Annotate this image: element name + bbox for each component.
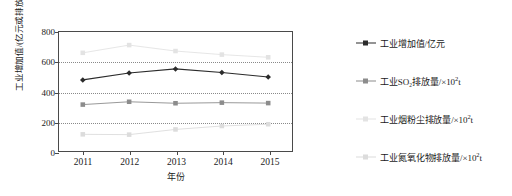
x-tick-label: 2012	[120, 157, 139, 167]
y-tick-label: 800	[42, 27, 56, 37]
data-point-marker	[173, 101, 178, 106]
legend-marker	[363, 117, 368, 122]
series-layer	[59, 32, 292, 151]
legend-item-1[interactable]: 工业增加值/亿元	[356, 24, 512, 62]
series-2	[81, 100, 271, 107]
data-point-marker	[220, 100, 225, 105]
data-point-marker	[81, 132, 86, 137]
x-tick-label: 2011	[74, 157, 93, 167]
x-tick-label: 2013	[167, 157, 186, 167]
x-axis-title: 年份	[167, 170, 185, 183]
legend-label-unit: t	[458, 77, 460, 87]
legend-marker	[363, 79, 368, 84]
legend-label-text: 工业烟粉尘排放量/×10	[380, 115, 467, 125]
legend-item-3[interactable]: 工业烟粉尘排放量/×102t	[356, 100, 512, 138]
legend-label: 工业氮氧化物排放量/×102t	[380, 151, 482, 164]
legend-label-text: 工业氮氧化物排放量/×10	[380, 153, 476, 163]
legend-label-unit: t	[471, 115, 473, 125]
legend-marker	[363, 155, 368, 160]
data-point-marker	[173, 49, 178, 54]
series-4	[81, 122, 271, 137]
legend-label: 工业增加值/亿元	[380, 37, 445, 50]
y-tick-label: 600	[42, 57, 56, 67]
data-point-marker	[265, 74, 271, 80]
x-tick-mark	[130, 151, 131, 155]
series-3	[81, 43, 271, 60]
x-tick-mark	[223, 151, 224, 155]
data-point-marker	[127, 132, 132, 137]
data-point-marker	[220, 124, 225, 129]
chart-legend: 工业增加值/亿元工业SO₂排放量/×102t工业烟粉尘排放量/×102t工业氮氧…	[356, 24, 512, 176]
legend-item-4[interactable]: 工业氮氧化物排放量/×102t	[356, 138, 512, 176]
series-1	[80, 66, 271, 83]
y-tick-mark	[55, 153, 59, 154]
legend-swatch-square-icon	[356, 76, 376, 86]
data-point-marker	[266, 101, 271, 106]
data-point-marker	[219, 70, 225, 76]
data-point-marker	[173, 127, 178, 132]
y-tick-label: 0	[51, 148, 56, 158]
data-point-marker	[127, 43, 132, 48]
legend-label-unit: t	[479, 153, 481, 163]
data-point-marker	[127, 100, 132, 105]
data-point-marker	[266, 122, 271, 127]
legend-marker	[363, 41, 368, 46]
legend-label: 工业SO₂排放量/×102t	[380, 75, 461, 88]
legend-label: 工业烟粉尘排放量/×102t	[380, 113, 473, 126]
x-tick-mark	[83, 151, 84, 155]
plot-area: 0200400600800 20112012201320142015	[58, 31, 293, 152]
data-point-marker	[266, 55, 271, 60]
data-point-marker	[173, 66, 179, 72]
y-axis-title-text: 工业增加值/(亿元或排放量/×10	[14, 0, 24, 91]
legend-label-text: 工业增加值/亿元	[380, 39, 445, 49]
legend-swatch-square-icon	[356, 152, 376, 162]
data-point-marker	[80, 77, 86, 83]
legend-swatch-diamond-icon	[356, 38, 376, 48]
data-point-marker	[81, 102, 86, 107]
x-tick-mark	[270, 151, 271, 155]
x-tick-label: 2015	[261, 157, 280, 167]
x-tick-mark	[177, 151, 178, 155]
data-point-marker	[126, 70, 132, 76]
legend-swatch-square-icon	[356, 114, 376, 124]
y-axis-title: 工业增加值/(亿元或排放量/×102t)	[9, 0, 23, 99]
y-tick-label: 200	[42, 118, 56, 128]
data-point-marker	[220, 52, 225, 57]
data-point-marker	[81, 51, 86, 56]
chart-figure: 工业增加值/(亿元或排放量/×102t) 0200400600800 20112…	[0, 0, 512, 196]
x-tick-label: 2014	[214, 157, 233, 167]
legend-label-text: 工业SO₂排放量/×10	[380, 77, 455, 87]
legend-item-2[interactable]: 工业SO₂排放量/×102t	[356, 62, 512, 100]
y-tick-label: 400	[42, 88, 56, 98]
